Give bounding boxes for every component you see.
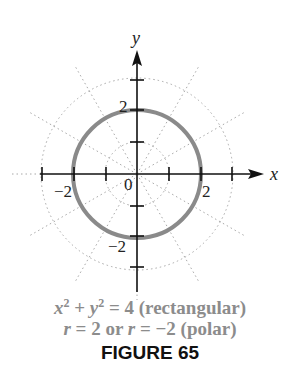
figure-label: FIGURE 65 <box>0 342 300 364</box>
caption-var-x: x <box>54 297 64 318</box>
tick-label-y-neg2: −2 <box>108 237 126 256</box>
tick-label-y-pos2: 2 <box>119 97 128 116</box>
caption-rect-rest: = 4 (rectangular) <box>104 297 246 318</box>
y-axis-label: y <box>130 28 140 48</box>
x-axis-label: x <box>269 164 278 184</box>
caption-plus: + <box>69 297 89 318</box>
caption-rectangular: x2 + y2 = 4 (rectangular) <box>0 296 300 319</box>
origin-label: 0 <box>124 175 133 194</box>
caption-var-y: y <box>90 297 98 318</box>
caption-polar-rest: = −2 (polar) <box>135 318 236 339</box>
caption-polar: r = 2 or r = −2 (polar) <box>0 318 300 340</box>
tick-label-x-neg2: −2 <box>54 182 72 201</box>
tick-label-x-pos2: 2 <box>202 182 211 201</box>
caption-polar-mid: = 2 or <box>71 318 128 339</box>
caption-var-r1: r <box>63 318 70 339</box>
